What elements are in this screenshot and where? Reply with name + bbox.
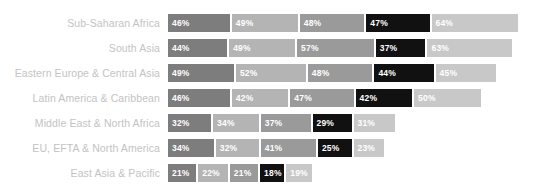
- bar-segment[interactable]: 64%: [432, 14, 518, 32]
- chart-row: East Asia & Pacific21%22%21%18%19%: [0, 160, 544, 185]
- bar-segment[interactable]: 31%: [354, 114, 396, 132]
- bar-segment-value: 34%: [168, 143, 190, 153]
- chart-row: Eastern Europe & Central Asia49%52%48%44…: [0, 60, 544, 85]
- bar-segment-value: 46%: [168, 93, 190, 103]
- bar-segment-value: 64%: [432, 18, 454, 28]
- bar-segment-value: 48%: [308, 68, 330, 78]
- bar-segment[interactable]: 42%: [232, 89, 288, 107]
- bar-segment-value: 50%: [414, 93, 436, 103]
- bar-segment[interactable]: 29%: [313, 114, 352, 132]
- row-category-label: Eastern Europe & Central Asia: [0, 67, 168, 79]
- bar-segment[interactable]: 37%: [376, 39, 426, 57]
- bar-segment[interactable]: 18%: [260, 164, 284, 182]
- bar-segment[interactable]: 47%: [366, 14, 429, 32]
- bar-segment[interactable]: 41%: [261, 139, 316, 157]
- bar-segment-value: 34%: [213, 118, 235, 128]
- bar-segment-value: 22%: [198, 168, 220, 178]
- bar-segment-value: 25%: [318, 143, 340, 153]
- bar-segment[interactable]: 22%: [198, 164, 228, 182]
- bar-segment-value: 23%: [354, 143, 376, 153]
- bar-segment[interactable]: 45%: [436, 64, 497, 82]
- bar-segment[interactable]: 32%: [216, 139, 259, 157]
- bar-segment-value: 52%: [236, 68, 258, 78]
- chart-row: Middle East & North Africa32%34%37%29%31…: [0, 110, 544, 135]
- bar-segment-value: 37%: [376, 43, 398, 53]
- bar-segment[interactable]: 23%: [354, 139, 385, 157]
- bar-track: 44%49%57%37%63%: [168, 39, 512, 57]
- bar-track: 32%34%37%29%31%: [168, 114, 395, 132]
- bar-segment-value: 63%: [427, 43, 449, 53]
- bar-segment-value: 21%: [168, 168, 190, 178]
- bar-segment[interactable]: 34%: [213, 114, 259, 132]
- bar-segment-value: 18%: [260, 168, 282, 178]
- bar-segment-value: 44%: [374, 68, 396, 78]
- bar-segment-value: 31%: [354, 118, 376, 128]
- bar-segment[interactable]: 48%: [300, 14, 365, 32]
- bar-segment-value: 32%: [216, 143, 238, 153]
- row-category-label: EU, EFTA & North America: [0, 142, 168, 154]
- chart-row: Sub-Saharan Africa46%49%48%47%64%: [0, 10, 544, 35]
- bar-segment[interactable]: 47%: [290, 89, 353, 107]
- bar-segment[interactable]: 63%: [427, 39, 512, 57]
- bar-segment[interactable]: 57%: [297, 39, 374, 57]
- stacked-bar-chart: Sub-Saharan Africa46%49%48%47%64%South A…: [0, 0, 544, 194]
- bar-segment[interactable]: 49%: [232, 14, 298, 32]
- bar-segment-value: 29%: [313, 118, 335, 128]
- bar-segment-value: 57%: [297, 43, 319, 53]
- bar-track: 46%49%48%47%64%: [168, 14, 518, 32]
- bar-segment-value: 37%: [261, 118, 283, 128]
- bar-segment[interactable]: 44%: [168, 39, 227, 57]
- bar-segment-value: 45%: [436, 68, 458, 78]
- bar-segment[interactable]: 34%: [168, 139, 214, 157]
- bar-segment-value: 44%: [168, 43, 190, 53]
- chart-rows: Sub-Saharan Africa46%49%48%47%64%South A…: [0, 10, 544, 185]
- bar-segment-value: 32%: [168, 118, 190, 128]
- bar-segment[interactable]: 49%: [229, 39, 295, 57]
- bar-segment[interactable]: 19%: [286, 164, 312, 182]
- bar-segment-value: 49%: [229, 43, 251, 53]
- bar-segment[interactable]: 21%: [230, 164, 258, 182]
- bar-segment[interactable]: 44%: [374, 64, 433, 82]
- row-category-label: East Asia & Pacific: [0, 167, 168, 179]
- bar-track: 34%32%41%25%23%: [168, 139, 384, 157]
- bar-track: 21%22%21%18%19%: [168, 164, 312, 182]
- bar-segment[interactable]: 48%: [308, 64, 373, 82]
- bar-segment[interactable]: 25%: [318, 139, 352, 157]
- bar-segment[interactable]: 50%: [414, 89, 481, 107]
- chart-row: South Asia44%49%57%37%63%: [0, 35, 544, 60]
- row-category-label: South Asia: [0, 42, 168, 54]
- chart-row: EU, EFTA & North America34%32%41%25%23%: [0, 135, 544, 160]
- row-category-label: Latin America & Caribbean: [0, 92, 168, 104]
- bar-segment-value: 47%: [366, 18, 388, 28]
- bar-segment-value: 21%: [230, 168, 252, 178]
- bar-segment-value: 47%: [290, 93, 312, 103]
- bar-segment[interactable]: 52%: [236, 64, 306, 82]
- bar-segment-value: 42%: [356, 93, 378, 103]
- bar-segment-value: 48%: [300, 18, 322, 28]
- bar-track: 46%42%47%42%50%: [168, 89, 481, 107]
- chart-row: Latin America & Caribbean46%42%47%42%50%: [0, 85, 544, 110]
- bar-segment-value: 46%: [168, 18, 190, 28]
- bar-segment[interactable]: 32%: [168, 114, 211, 132]
- bar-segment-value: 41%: [261, 143, 283, 153]
- bar-segment[interactable]: 21%: [168, 164, 196, 182]
- bar-segment-value: 42%: [232, 93, 254, 103]
- bar-segment-value: 49%: [232, 18, 254, 28]
- bar-segment[interactable]: 37%: [261, 114, 311, 132]
- row-category-label: Sub-Saharan Africa: [0, 17, 168, 29]
- bar-segment-value: 49%: [168, 68, 190, 78]
- bar-segment[interactable]: 46%: [168, 14, 230, 32]
- row-category-label: Middle East & North Africa: [0, 117, 168, 129]
- bar-segment[interactable]: 46%: [168, 89, 230, 107]
- bar-segment-value: 19%: [286, 168, 308, 178]
- bar-segment[interactable]: 49%: [168, 64, 234, 82]
- bar-track: 49%52%48%44%45%: [168, 64, 496, 82]
- bar-segment[interactable]: 42%: [356, 89, 412, 107]
